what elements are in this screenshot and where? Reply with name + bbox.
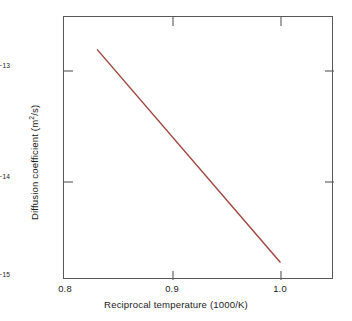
plot-canvas xyxy=(64,17,334,280)
xtick-label-0-9: 0.9 xyxy=(165,283,179,294)
y-axis-title-superscript: 2 xyxy=(28,116,35,120)
ytick-label-1e-13: 10−13 xyxy=(0,64,10,74)
ytick-label-1e-15: 10−15 xyxy=(0,273,10,283)
diffusion-data-line xyxy=(97,50,280,262)
xtick-label-1-0: 1.0 xyxy=(273,283,287,294)
y-axis-title-suffix: /s) xyxy=(29,105,40,116)
x-axis-title: Reciprocal temperature (1000/K) xyxy=(0,299,352,310)
ytick-exponent: −13 xyxy=(0,62,10,69)
y-axis-title-prefix: Diffusion coefficient (m xyxy=(29,120,40,220)
ytick-exponent: −15 xyxy=(0,271,10,278)
xtick-label-0-8: 0.8 xyxy=(58,283,72,294)
ytick-label-1e-14: 10−14 xyxy=(0,175,10,185)
plot-area xyxy=(63,16,333,279)
tick-marks xyxy=(64,17,334,280)
ytick-exponent: −14 xyxy=(0,173,10,180)
y-axis-title: Diffusion coefficient (m2/s) xyxy=(29,105,40,220)
diffusion-coefficient-chart: 10−13 10−14 10−15 0.8 0.9 1.0 Reciprocal… xyxy=(0,0,352,321)
